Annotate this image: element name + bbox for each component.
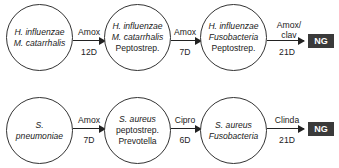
row1-arrow2-drug: Amox — [170, 27, 200, 37]
organism: Fusobacteria — [209, 32, 259, 43]
row2-arrow3-drug: Clinda — [270, 115, 304, 125]
row1-arrow3 — [267, 40, 304, 41]
row1-arrow3-drug: Amox/clav — [272, 20, 306, 40]
row2-end-badge: NG — [308, 122, 334, 136]
row2-node1: S. pneumoniae — [6, 97, 73, 164]
organism: H. influenzae — [112, 21, 162, 32]
row1-node1: H. influenzae M. catarrhalis — [6, 4, 73, 71]
row2-arrow2-drug: Cipro — [170, 115, 200, 125]
organism: M. catarrhalis — [14, 38, 66, 49]
organism: H. influenzae — [14, 27, 64, 38]
organism: peptostrep. — [116, 125, 159, 136]
row1-node2: H. influenzae M. catarrhalis Peptostrep. — [104, 4, 171, 71]
organism: H. influenzae — [208, 21, 258, 32]
organism: Fusobacteria — [209, 131, 259, 142]
row1-arrow1-drug: Amox — [74, 27, 104, 37]
organism: S. — [35, 120, 43, 131]
organism: Prevotella — [118, 136, 156, 147]
row1-arrow1 — [73, 40, 105, 41]
row1-arrow2 — [171, 40, 201, 41]
row2-arrow1-drug: Amox — [74, 115, 104, 125]
organism: pneumoniae — [16, 131, 63, 142]
row2-arrow1 — [73, 128, 105, 129]
row1-arrow2-duration: 7D — [170, 47, 200, 57]
organism: M. catarrhalis — [112, 32, 164, 43]
row2-arrow2-duration: 6D — [170, 135, 200, 145]
row2-arrow2 — [171, 128, 201, 129]
row1-end-badge: NG — [308, 34, 334, 48]
row1-arrow1-duration: 12D — [74, 47, 104, 57]
row2-arrow3-duration: 21D — [270, 135, 304, 145]
row1-arrow3-duration: 21D — [270, 47, 304, 57]
row2-node2: S. aureus peptostrep. Prevotella — [104, 97, 171, 164]
organism: Peptostrep. — [116, 43, 160, 54]
organism: Peptostrep. — [212, 43, 256, 54]
row2-arrow3 — [267, 128, 304, 129]
row1-node3: H. influenzae Fusobacteria Peptostrep. — [200, 4, 267, 71]
row2-arrow1-duration: 7D — [74, 135, 104, 145]
organism: S. aureus — [119, 114, 156, 125]
row2-node3: S. aureus Fusobacteria — [200, 97, 267, 164]
organism: S. aureus — [215, 120, 252, 131]
